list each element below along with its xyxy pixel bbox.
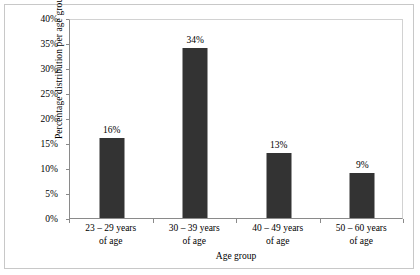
- x-axis-tick-label-line: of age: [85, 235, 136, 248]
- y-axis-tick-label: 40%: [41, 14, 58, 24]
- x-axis-tick-mark: [403, 219, 404, 223]
- bar-group: 34%: [154, 20, 238, 218]
- y-axis-tick-labels: 0%5%10%15%20%25%30%35%40%: [5, 19, 65, 219]
- x-axis-tick-label-line: 30 – 39 years: [169, 222, 220, 235]
- bar[interactable]: [350, 173, 375, 218]
- bar-group: 9%: [321, 20, 405, 218]
- bar[interactable]: [183, 48, 208, 218]
- x-axis-tick-label-line: of age: [252, 235, 303, 248]
- y-axis-tick-label: 30%: [41, 64, 58, 74]
- y-axis-tick-label: 15%: [41, 139, 58, 149]
- chart-figure: Percentage distribution per age group 0%…: [4, 4, 414, 269]
- bar-value-label: 16%: [103, 125, 120, 135]
- x-axis-tick-label: 40 – 49 yearsof age: [252, 222, 303, 248]
- y-axis-tick-label: 25%: [41, 89, 58, 99]
- x-axis-tick-label: 23 – 29 yearsof age: [85, 222, 136, 248]
- y-axis-tick-label: 10%: [41, 164, 58, 174]
- bar-value-label: 13%: [270, 140, 287, 150]
- x-axis-tick-label: 30 – 39 yearsof age: [169, 222, 220, 248]
- x-axis-title: Age group: [69, 251, 403, 261]
- x-axis-tick-mark: [320, 219, 321, 223]
- plot-area: 16%34%13%9%: [69, 19, 403, 219]
- x-axis-tick-label-line: of age: [169, 235, 220, 248]
- bar[interactable]: [99, 138, 124, 218]
- bar[interactable]: [266, 153, 291, 218]
- x-axis-tick-mark: [153, 219, 154, 223]
- y-axis-tick-label: 5%: [45, 189, 58, 199]
- x-axis-tick-label-line: 50 – 60 years: [336, 222, 387, 235]
- x-axis-tick-label-line: of age: [336, 235, 387, 248]
- y-axis-tick-label: 35%: [41, 39, 58, 49]
- y-axis-tick-label: 20%: [41, 114, 58, 124]
- y-axis-tick-label: 0%: [45, 214, 58, 224]
- x-axis-tick-mark: [236, 219, 237, 223]
- bar-group: 13%: [237, 20, 321, 218]
- x-axis-tick-label-line: 23 – 29 years: [85, 222, 136, 235]
- x-axis-tick-mark: [69, 219, 70, 223]
- x-axis-tick-label-line: 40 – 49 years: [252, 222, 303, 235]
- bar-value-label: 34%: [187, 35, 204, 45]
- x-axis-tick-labels: 23 – 29 yearsof age30 – 39 yearsof age40…: [69, 222, 403, 254]
- x-axis-tick-label: 50 – 60 yearsof age: [336, 222, 387, 248]
- bar-value-label: 9%: [356, 160, 369, 170]
- bar-group: 16%: [70, 20, 154, 218]
- bar-series: 16%34%13%9%: [70, 20, 402, 218]
